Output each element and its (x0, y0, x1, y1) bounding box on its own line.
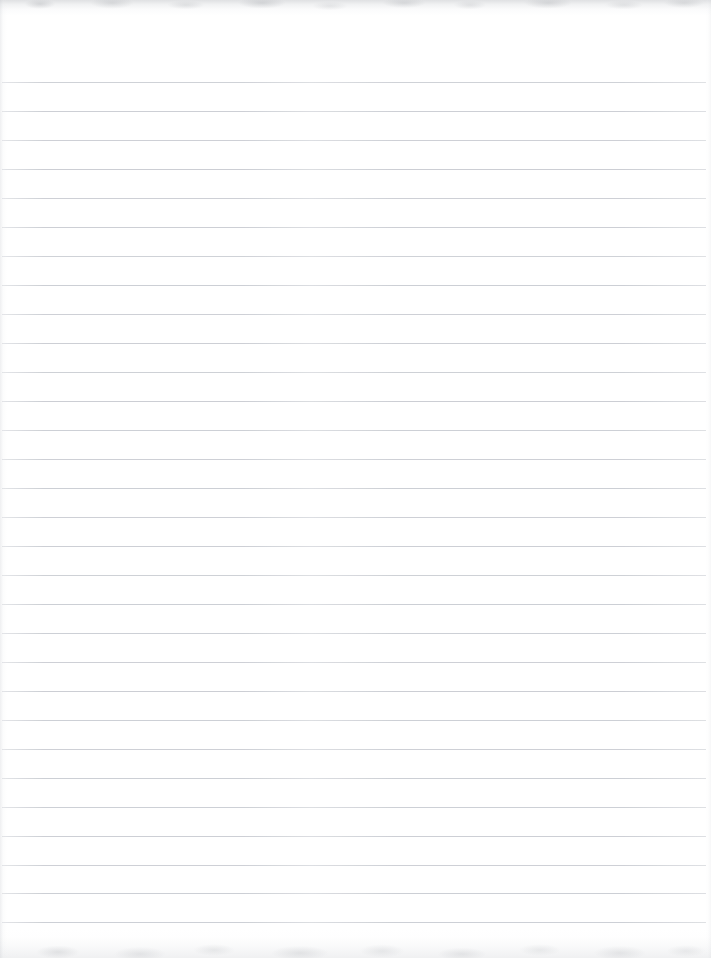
rule-line (2, 633, 706, 634)
rule-line (2, 691, 706, 692)
rule-line (2, 893, 706, 894)
ruled-lines-layer (0, 0, 711, 958)
rule-line (2, 227, 706, 228)
rule-line (2, 662, 706, 663)
rule-line (2, 488, 706, 489)
rule-line (2, 922, 706, 923)
rule-line (2, 169, 706, 170)
rule-line (2, 111, 706, 112)
rule-line (2, 198, 706, 199)
rule-line (2, 836, 706, 837)
rule-line (2, 140, 706, 141)
rule-line (2, 546, 706, 547)
rule-line (2, 575, 706, 576)
rule-line (2, 82, 706, 83)
rule-line (2, 256, 706, 257)
rule-line (2, 285, 706, 286)
rule-line (2, 865, 706, 866)
rule-line (2, 807, 706, 808)
rule-line (2, 778, 706, 779)
rule-line (2, 517, 706, 518)
rule-line (2, 372, 706, 373)
rule-line (2, 720, 706, 721)
rule-line (2, 604, 706, 605)
rule-line (2, 459, 706, 460)
rule-line (2, 343, 706, 344)
rule-line (2, 314, 706, 315)
rule-line (2, 430, 706, 431)
rule-line (2, 749, 706, 750)
scanned-page (0, 0, 711, 958)
rule-line (2, 401, 706, 402)
